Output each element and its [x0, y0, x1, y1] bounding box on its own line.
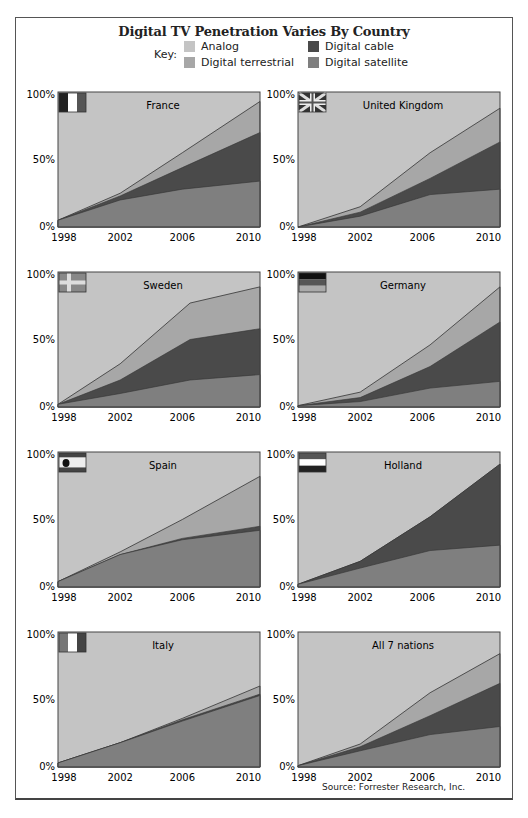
x-tick-label: 1998 — [291, 232, 316, 243]
x-tick-label: 2006 — [170, 772, 195, 783]
x-tick-label: 1998 — [51, 772, 76, 783]
x-tick-label: 1998 — [291, 772, 316, 783]
x-tick-label: 1998 — [51, 592, 76, 603]
x-tick-label: 2006 — [410, 412, 435, 423]
chart-panel-sweden: Sweden0%50%100%1998200220062010 — [18, 266, 270, 431]
x-tick-label: 1998 — [291, 412, 316, 423]
source-note: Source: Forrester Research, Inc. — [322, 782, 465, 792]
holland-flag-icon — [299, 453, 326, 472]
x-tick-label: 1998 — [291, 592, 316, 603]
x-tick-label: 2006 — [170, 412, 195, 423]
y-tick-label: 0% — [279, 401, 295, 412]
chart-panel-all-7-nations: All 7 nations0%50%100%1998200220062010 — [258, 626, 510, 791]
uk-flag-icon — [299, 93, 326, 112]
chart-panel-france: France0%50%100%1998200220062010 — [18, 86, 270, 251]
legend-item-analog: Analog — [184, 40, 239, 53]
y-tick-label: 100% — [26, 269, 55, 280]
x-tick-label: 2002 — [347, 232, 372, 243]
legend-item-satellite: Digital satellite — [308, 56, 408, 69]
legend-item-terrestrial: Digital terrestrial — [184, 56, 294, 69]
y-tick-label: 0% — [279, 761, 295, 772]
panel-title: France — [146, 100, 179, 111]
panel-title: Sweden — [143, 280, 183, 291]
y-tick-label: 100% — [26, 629, 55, 640]
x-tick-label: 2002 — [347, 592, 372, 603]
x-tick-label: 2002 — [107, 412, 132, 423]
x-tick-label: 2006 — [410, 592, 435, 603]
y-tick-label: 50% — [33, 514, 55, 525]
cropped-header-text — [0, 0, 528, 10]
y-tick-label: 50% — [273, 694, 295, 705]
x-tick-label: 2006 — [170, 592, 195, 603]
swatch-analog — [184, 41, 195, 52]
x-tick-label: 2010 — [476, 592, 501, 603]
swatch-satellite — [308, 57, 319, 68]
legend: Key: Analog Digital terrestrial Digital … — [154, 38, 454, 72]
panel-title: Spain — [149, 460, 177, 471]
x-tick-label: 2006 — [410, 232, 435, 243]
germany-flag-icon — [299, 273, 326, 292]
chart-panel-holland: Holland0%50%100%1998200220062010 — [258, 446, 510, 611]
y-tick-label: 0% — [39, 581, 55, 592]
y-tick-label: 0% — [279, 581, 295, 592]
x-tick-label: 1998 — [51, 412, 76, 423]
x-tick-label: 2010 — [476, 772, 501, 783]
spain-flag-icon — [59, 453, 86, 472]
x-tick-label: 2002 — [107, 772, 132, 783]
legend-item-cable: Digital cable — [308, 40, 394, 53]
panel-title: Italy — [152, 640, 174, 651]
y-tick-label: 100% — [266, 629, 295, 640]
x-tick-label: 2002 — [107, 592, 132, 603]
y-tick-label: 50% — [273, 514, 295, 525]
y-tick-label: 100% — [26, 449, 55, 460]
x-tick-label: 2010 — [476, 412, 501, 423]
y-tick-label: 0% — [39, 221, 55, 232]
sweden-flag-icon — [59, 273, 86, 292]
panel-title: United Kingdom — [363, 100, 443, 111]
y-tick-label: 50% — [33, 154, 55, 165]
x-tick-label: 2002 — [107, 232, 132, 243]
x-tick-label: 1998 — [51, 232, 76, 243]
france-flag-icon — [59, 93, 86, 112]
italy-flag-icon — [59, 633, 86, 652]
chart-panel-germany: Germany0%50%100%1998200220062010 — [258, 266, 510, 431]
chart-panel-italy: Italy0%50%100%1998200220062010 — [18, 626, 270, 791]
panel-title: Holland — [384, 460, 422, 471]
swatch-cable — [308, 41, 319, 52]
figure-title: Digital TV Penetration Varies By Country — [16, 24, 512, 39]
x-tick-label: 2002 — [347, 412, 372, 423]
x-tick-label: 2010 — [476, 232, 501, 243]
panel-title: All 7 nations — [372, 640, 434, 651]
y-tick-label: 100% — [26, 89, 55, 100]
y-tick-label: 50% — [33, 694, 55, 705]
y-tick-label: 100% — [266, 269, 295, 280]
chart-panel-spain: Spain0%50%100%1998200220062010 — [18, 446, 270, 611]
y-tick-label: 50% — [273, 154, 295, 165]
y-tick-label: 0% — [39, 401, 55, 412]
y-tick-label: 100% — [266, 89, 295, 100]
y-tick-label: 0% — [39, 761, 55, 772]
x-tick-label: 2006 — [170, 232, 195, 243]
panel-title: Germany — [380, 280, 426, 291]
chart-panel-united-kingdom: United Kingdom0%50%100%1998200220062010 — [258, 86, 510, 251]
legend-label: Key: — [154, 48, 177, 61]
y-tick-label: 50% — [273, 334, 295, 345]
y-tick-label: 50% — [33, 334, 55, 345]
y-tick-label: 100% — [266, 449, 295, 460]
swatch-terrestrial — [184, 57, 195, 68]
y-tick-label: 0% — [279, 221, 295, 232]
